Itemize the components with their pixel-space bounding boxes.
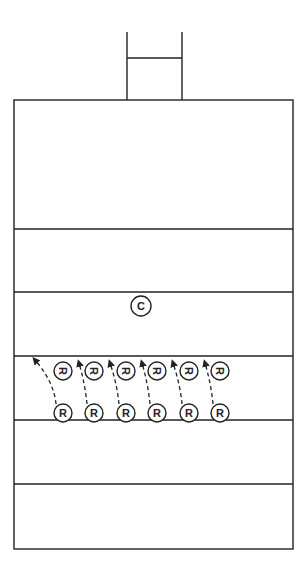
player-label: R xyxy=(185,407,193,419)
player-label: R xyxy=(59,407,67,419)
player-marker: R xyxy=(211,362,229,380)
player-marker: R xyxy=(211,404,229,422)
field-boundary xyxy=(14,100,293,549)
goalposts xyxy=(127,32,182,100)
field-lines xyxy=(14,229,293,484)
player-marker: R xyxy=(54,362,72,380)
player-label: R xyxy=(57,367,69,375)
run-arrow xyxy=(35,360,56,404)
player-marker: R xyxy=(180,362,198,380)
player-marker: R xyxy=(85,362,103,380)
player-marker: R xyxy=(148,362,166,380)
player-label: R xyxy=(122,407,130,419)
rugby-drill-diagram: RRRRRRRRRRRR C xyxy=(0,0,308,572)
player-label: R xyxy=(153,407,161,419)
player-label: R xyxy=(90,407,98,419)
player-marker: R xyxy=(148,404,166,422)
player-label: R xyxy=(88,367,100,375)
player-marker: R xyxy=(180,404,198,422)
coach-label: C xyxy=(137,300,145,312)
player-label: R xyxy=(151,367,163,375)
player-label: R xyxy=(216,407,224,419)
player-label: R xyxy=(214,367,226,375)
player-marker: R xyxy=(85,404,103,422)
player-label: R xyxy=(183,367,195,375)
player-marker: R xyxy=(54,404,72,422)
players: RRRRRRRRRRRR xyxy=(54,362,229,422)
player-label: R xyxy=(120,367,132,375)
player-marker: R xyxy=(117,362,135,380)
player-marker: R xyxy=(117,404,135,422)
coach-marker: C xyxy=(131,296,151,316)
